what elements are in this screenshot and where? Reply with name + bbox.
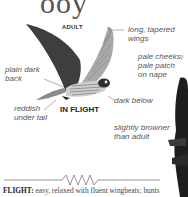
flight-label: FLIGHT:: [3, 186, 34, 195]
age-label: ADULT: [62, 24, 83, 30]
annotation-text: plain dark: [5, 65, 40, 74]
annotation-text: on nape: [138, 70, 183, 79]
annotation-text: long, tapered: [128, 25, 175, 34]
annotation-text: pale cheeks;: [138, 52, 183, 61]
annotation-text: reddish: [14, 104, 47, 113]
flight-description: FLIGHT: easy, relaxed with fluent wingbe…: [3, 186, 159, 195]
annotation-text: pale patch: [138, 61, 183, 70]
annotation-below: dark below: [114, 96, 153, 105]
annotation-text: under tail: [14, 113, 47, 122]
view-label: IN FLIGHT: [60, 105, 99, 114]
annotation-text: than adult: [114, 132, 170, 141]
flight-text: easy, relaxed with fluent wingbeats; hun…: [34, 186, 160, 195]
annotation-wings: long, tapered wings: [128, 25, 175, 43]
annotation-back: plain dark back: [5, 65, 40, 83]
annotation-cheeks: pale cheeks; pale patch on nape: [138, 52, 183, 79]
annotation-juvenile: slightly browner than adult: [114, 123, 170, 141]
annotation-text: back: [5, 74, 40, 83]
annotation-text: dark below: [114, 96, 153, 105]
annotation-text: wings: [128, 34, 175, 43]
annotation-text: slightly browner: [114, 123, 170, 132]
annotation-tail: reddish under tail: [14, 104, 47, 122]
